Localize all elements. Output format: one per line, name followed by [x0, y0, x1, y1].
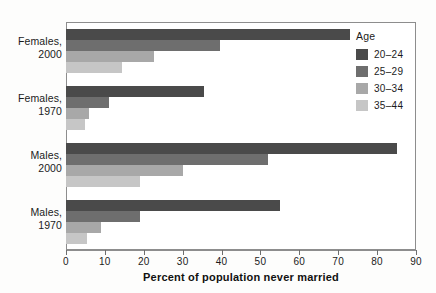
x-axis-tick-label: 50 — [245, 256, 275, 267]
bar — [66, 143, 397, 154]
bar — [66, 97, 109, 108]
x-axis-tick — [338, 250, 339, 255]
bar-chart-figure: Females,2000Females,1970Males,2000Males,… — [0, 0, 436, 293]
x-axis-tick-label: 60 — [284, 256, 314, 267]
y-axis-category-label: Females,2000 — [0, 35, 62, 61]
bar — [66, 86, 204, 97]
legend-swatch — [356, 100, 368, 111]
legend-item: 30–34 — [356, 80, 432, 97]
legend-label: 35–44 — [374, 100, 403, 111]
y-label-line-2: 2000 — [0, 162, 62, 175]
bar — [66, 40, 220, 51]
bar — [66, 29, 350, 40]
bar — [66, 233, 87, 244]
bar — [66, 165, 183, 176]
x-axis-tick — [416, 250, 417, 255]
y-label-line-1: Females, — [18, 35, 62, 47]
bar — [66, 108, 89, 119]
legend-item: 25–29 — [356, 63, 432, 80]
bar — [66, 211, 140, 222]
x-axis-tick — [144, 250, 145, 255]
legend-label: 20–24 — [374, 49, 403, 60]
y-label-line-2: 1970 — [0, 219, 62, 232]
x-axis-tick-label: 70 — [323, 256, 353, 267]
legend-swatch — [356, 66, 368, 77]
x-axis-tick — [299, 250, 300, 255]
legend-items: 20–2425–2930–3435–44 — [356, 46, 432, 114]
bar — [66, 222, 101, 233]
bar — [66, 176, 140, 187]
x-axis-tick-label: 40 — [207, 256, 237, 267]
x-axis-line — [66, 250, 416, 251]
x-axis-title: Percent of population never married — [66, 271, 416, 283]
legend-title: Age — [356, 30, 432, 42]
x-axis-tick — [105, 250, 106, 255]
x-axis-tick-label: 10 — [90, 256, 120, 267]
x-axis-tick-label: 20 — [129, 256, 159, 267]
legend-swatch — [356, 49, 368, 60]
legend-label: 30–34 — [374, 83, 403, 94]
bar — [66, 200, 280, 211]
y-label-line-2: 1970 — [0, 105, 62, 118]
y-axis-category-label: Females,1970 — [0, 92, 62, 118]
bar-group — [0, 200, 436, 244]
bar — [66, 51, 154, 62]
legend: Age 20–2425–2930–3435–44 — [356, 30, 432, 114]
y-axis-category-label: Males,1970 — [0, 206, 62, 232]
x-axis-tick — [377, 250, 378, 255]
x-axis-tick — [66, 250, 67, 255]
y-axis-category-label: Males,2000 — [0, 149, 62, 175]
y-label-line-2: 2000 — [0, 48, 62, 61]
bar — [66, 154, 268, 165]
x-axis-tick-label: 0 — [51, 256, 81, 267]
x-axis-tick — [260, 250, 261, 255]
y-label-line-1: Females, — [18, 92, 62, 104]
y-label-line-1: Males, — [30, 149, 62, 161]
bar — [66, 62, 122, 73]
bar — [66, 119, 85, 130]
y-label-line-1: Males, — [30, 206, 62, 218]
x-axis-tick — [183, 250, 184, 255]
legend-item: 35–44 — [356, 97, 432, 114]
bar-group — [0, 143, 436, 187]
x-axis-tick-label: 90 — [401, 256, 431, 267]
legend-label: 25–29 — [374, 66, 403, 77]
legend-item: 20–24 — [356, 46, 432, 63]
x-axis-tick-label: 30 — [168, 256, 198, 267]
x-axis-tick-label: 80 — [362, 256, 392, 267]
legend-swatch — [356, 83, 368, 94]
x-axis-tick — [222, 250, 223, 255]
